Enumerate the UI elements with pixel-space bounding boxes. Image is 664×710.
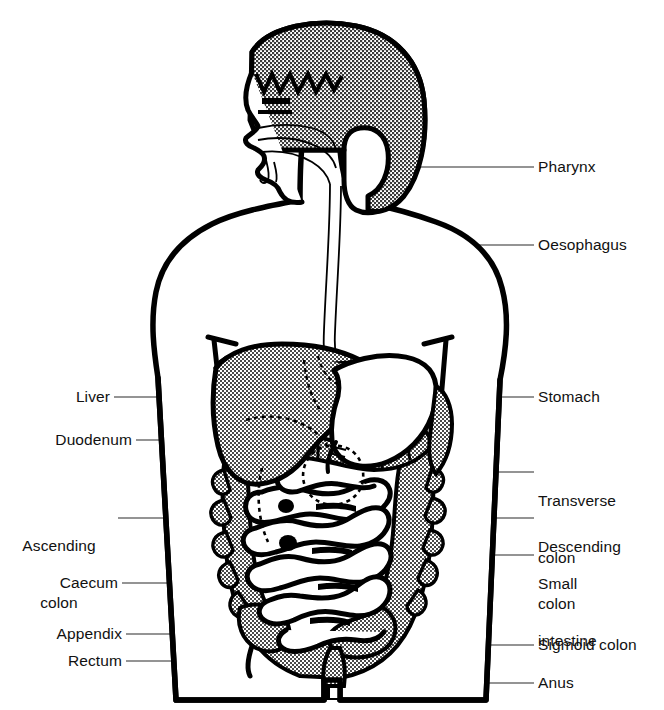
label-duodenum: Duodenum: [0, 430, 132, 449]
head-profile: [240, 14, 440, 224]
digestive-system-figure: Pharynx Oesophagus Stomach Transverse co…: [0, 0, 664, 710]
label-sigmoid-colon: Sigmoid colon: [538, 635, 637, 654]
eye-lower-lid: [258, 110, 292, 114]
label-ascending-colon-line2: colon: [0, 593, 118, 612]
eye: [262, 98, 290, 104]
label-pharynx: Pharynx: [538, 157, 596, 176]
label-caecum: Caecum: [0, 573, 118, 592]
label-small-intestine-line1: Small: [538, 574, 597, 593]
label-liver: Liver: [0, 387, 110, 406]
label-rectum: Rectum: [0, 651, 122, 670]
label-appendix: Appendix: [0, 624, 122, 643]
label-stomach: Stomach: [538, 387, 600, 406]
label-small-intestine: Small intestine: [538, 536, 597, 688]
label-anus: Anus: [538, 673, 574, 692]
label-oesophagus: Oesophagus: [538, 235, 627, 254]
label-ascending-colon-line1: Ascending: [0, 536, 118, 555]
